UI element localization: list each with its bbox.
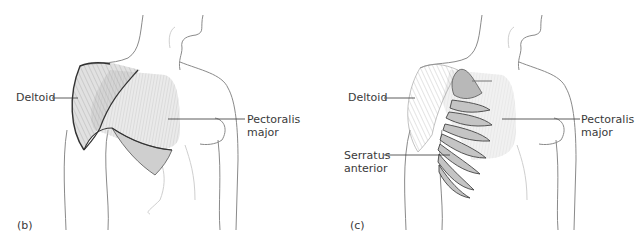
label-pectoralis-major: Pectoralis major: [581, 113, 634, 139]
panel-letter-c: (c): [350, 219, 365, 232]
label-pectoralis-line2: major: [581, 126, 634, 139]
panel-letter-b: (b): [17, 219, 33, 232]
label-pectoralis-major: Pectoralis major: [247, 113, 300, 139]
label-pectoralis-line1: Pectoralis: [581, 113, 634, 126]
label-pectoralis-line2: major: [247, 126, 300, 139]
label-deltoid: Deltoid: [348, 91, 387, 104]
label-serratus-anterior: Serratus anterior: [344, 149, 390, 175]
panel-c: Deltoid Pectoralis major Serratus anteri…: [322, 0, 644, 247]
panel-b: Deltoid Pectoralis major (b): [0, 0, 322, 247]
label-pectoralis-line1: Pectoralis: [247, 113, 300, 126]
label-serratus-line2: anterior: [344, 162, 390, 175]
label-serratus-line1: Serratus: [344, 149, 390, 162]
label-deltoid: Deltoid: [16, 91, 55, 104]
